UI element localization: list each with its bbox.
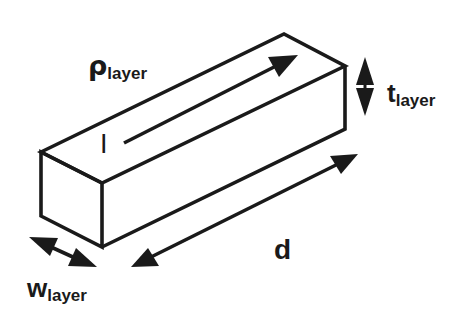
length-label: d bbox=[274, 236, 291, 264]
thickness-label: tlayer bbox=[387, 80, 435, 106]
current-label: I bbox=[100, 131, 108, 158]
arrowhead-up-icon bbox=[356, 57, 374, 85]
length-arrow bbox=[131, 154, 358, 267]
resistivity-symbol: ρ bbox=[88, 50, 107, 81]
arrowhead-down-icon bbox=[356, 88, 374, 116]
bar-outline bbox=[41, 34, 345, 247]
current-symbol: I bbox=[100, 129, 108, 159]
width-symbol: w bbox=[27, 273, 47, 303]
arrowhead-down-left-icon bbox=[131, 248, 159, 267]
diagram-canvas: ρlayer tlayer wlayer d I bbox=[0, 0, 463, 317]
resistivity-label: ρlayer bbox=[88, 52, 147, 79]
arrowhead-right-icon bbox=[68, 248, 97, 267]
width-arrow bbox=[29, 237, 97, 267]
thickness-symbol: t bbox=[387, 78, 396, 108]
width-label: wlayer bbox=[27, 275, 87, 301]
arrowhead-left-icon bbox=[29, 237, 58, 256]
thickness-arrow bbox=[356, 57, 374, 116]
resistivity-subscript: layer bbox=[107, 64, 147, 83]
width-subscript: layer bbox=[47, 286, 87, 305]
thickness-subscript: layer bbox=[396, 91, 436, 110]
bar-diagram-svg bbox=[0, 0, 463, 317]
bar-front-face bbox=[41, 152, 102, 247]
length-symbol: d bbox=[274, 234, 291, 265]
